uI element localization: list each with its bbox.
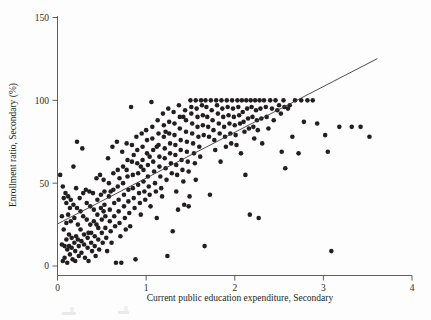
data-point <box>184 130 189 135</box>
data-point <box>80 146 85 151</box>
data-point <box>92 234 97 239</box>
data-point <box>216 111 221 116</box>
data-point <box>82 242 87 247</box>
data-point <box>64 201 69 206</box>
data-point <box>112 214 117 219</box>
data-point <box>220 106 225 111</box>
data-point <box>224 144 229 149</box>
data-point <box>148 204 153 209</box>
data-point <box>135 148 140 153</box>
data-point <box>119 260 124 265</box>
data-point <box>121 181 126 186</box>
data-point <box>76 244 81 249</box>
data-point <box>230 98 235 103</box>
data-point <box>108 229 113 234</box>
data-point <box>149 100 154 105</box>
data-point <box>231 106 236 111</box>
data-point <box>159 186 164 191</box>
regression-line <box>58 59 378 224</box>
data-point <box>127 211 132 216</box>
data-point <box>101 178 106 183</box>
data-point <box>208 192 213 197</box>
data-point <box>256 216 261 221</box>
data-point <box>136 171 141 176</box>
data-point <box>68 206 73 211</box>
data-point <box>189 105 194 110</box>
data-point <box>123 216 128 221</box>
data-point <box>225 105 230 110</box>
data-point <box>251 125 256 130</box>
data-point <box>142 189 147 194</box>
data-point <box>189 111 194 116</box>
data-point <box>175 173 180 178</box>
data-point <box>240 98 245 103</box>
data-point <box>71 202 76 207</box>
data-point <box>199 98 204 103</box>
data-point <box>131 173 136 178</box>
data-point <box>215 103 220 108</box>
data-point <box>234 143 239 148</box>
data-point <box>76 222 81 227</box>
data-point <box>236 105 241 110</box>
data-point <box>218 159 223 164</box>
data-point <box>92 207 97 212</box>
data-point <box>96 237 101 242</box>
data-points <box>58 98 372 265</box>
data-point <box>114 260 119 265</box>
data-point <box>64 221 69 226</box>
data-point <box>85 236 90 241</box>
data-point <box>147 192 152 197</box>
data-point <box>97 247 102 252</box>
data-point <box>217 121 222 126</box>
data-point <box>71 164 76 169</box>
data-point <box>98 173 103 178</box>
y-axis-label: Enrollment ratio, Secondary (%) <box>8 83 19 207</box>
data-point <box>125 158 130 163</box>
data-point <box>103 226 108 231</box>
data-point <box>233 133 238 138</box>
data-point <box>210 118 215 123</box>
data-point <box>229 141 234 146</box>
data-point <box>203 98 208 103</box>
data-point <box>93 254 98 259</box>
data-point <box>132 206 137 211</box>
data-point <box>157 154 162 159</box>
data-point <box>244 98 249 103</box>
data-point <box>115 168 120 173</box>
data-point <box>111 171 116 176</box>
data-point <box>143 197 148 202</box>
data-point <box>100 217 105 222</box>
data-point <box>271 118 276 123</box>
data-point <box>91 191 96 196</box>
data-point <box>166 106 171 111</box>
data-point <box>154 216 159 221</box>
data-point <box>145 138 150 143</box>
data-point <box>105 249 110 254</box>
chart-figure: 050100150 01234 Current public education… <box>0 0 431 320</box>
data-point <box>116 209 121 214</box>
data-point <box>168 151 173 156</box>
data-point <box>279 149 284 154</box>
data-point <box>263 105 268 110</box>
data-point <box>151 148 156 153</box>
data-point <box>358 125 363 130</box>
data-point <box>90 249 95 254</box>
x-tick-label: 3 <box>321 283 326 293</box>
data-point <box>79 250 84 255</box>
x-axis-ticks: 01234 <box>55 276 415 294</box>
data-point <box>116 197 121 202</box>
data-point <box>123 227 128 232</box>
data-point <box>121 164 126 169</box>
data-point <box>181 179 186 184</box>
data-point <box>131 186 136 191</box>
data-point <box>151 159 156 164</box>
data-point <box>135 161 140 166</box>
data-point <box>173 143 178 148</box>
data-point <box>253 98 258 103</box>
data-point <box>146 184 151 189</box>
data-point <box>270 106 275 111</box>
data-point <box>221 115 226 120</box>
scatter-plot-canvas: 050100150 01234 Current public education… <box>0 0 431 320</box>
data-point <box>224 98 229 103</box>
data-point <box>165 254 170 259</box>
